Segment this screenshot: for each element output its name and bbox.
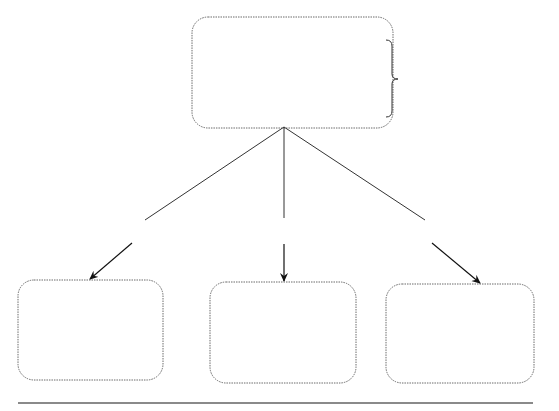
diagram-canvas: [0, 0, 559, 411]
developer-a-box: [18, 280, 163, 380]
arrow-to-developer-c: [432, 243, 480, 283]
arrow-to-developer-a: [90, 243, 132, 279]
developer-b-box: [210, 282, 356, 383]
connector-to-c-upper: [284, 127, 425, 220]
connector-to-a-upper: [145, 127, 284, 220]
top-panel-box: [192, 17, 393, 128]
developer-c-box: [386, 284, 534, 383]
brace-icon: [386, 40, 398, 117]
figure-rule: [18, 402, 533, 404]
